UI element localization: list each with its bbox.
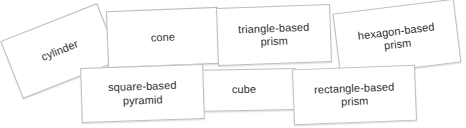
shape-card-label: cylinder (36, 36, 84, 66)
shape-card-label: square-based pyramid (104, 79, 181, 108)
shape-card-triangle-based-prism[interactable]: triangle-based prism (216, 4, 332, 66)
shape-card-rectangle-based-prism[interactable]: rectangle-based prism (292, 65, 417, 126)
shape-card-cube[interactable]: cube (192, 68, 297, 112)
shape-card-square-based-pyramid[interactable]: square-based pyramid (80, 64, 205, 123)
shape-card-label: triangle-based prism (234, 20, 314, 50)
shape-card-label: cube (228, 83, 261, 97)
shape-card-label: rectangle-based prism (310, 80, 399, 110)
shape-card-label: cone (147, 30, 180, 45)
shape-card-board: cylinder cone triangle-based prism hexag… (0, 0, 466, 128)
shape-card-cone[interactable]: cone (106, 7, 220, 68)
shape-card-label: hexagon-based prism (353, 19, 441, 56)
